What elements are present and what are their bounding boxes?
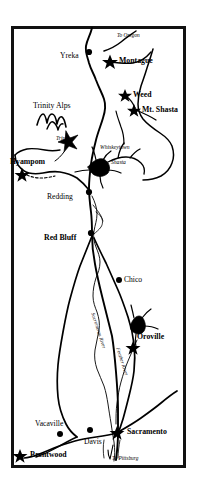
- map-canvas: [0, 0, 200, 490]
- dot-marker-vacaville: [57, 431, 63, 437]
- dot-marker-yreka: [86, 49, 92, 55]
- map-figure: Yreka Montague Weed Mt. Shasta Hyampom R…: [0, 0, 200, 490]
- dot-marker-red-bluff: [88, 230, 94, 236]
- dot-marker-redding: [86, 189, 92, 195]
- dot-marker-davis: [87, 427, 93, 433]
- dot-marker-chico: [116, 277, 122, 283]
